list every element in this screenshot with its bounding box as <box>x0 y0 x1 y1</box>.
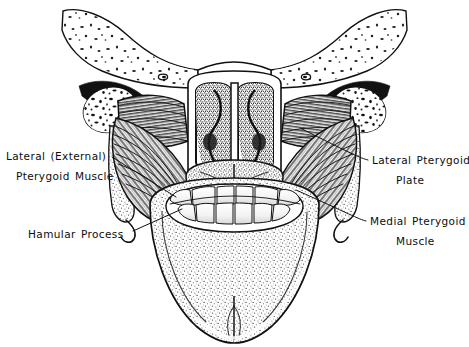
anatomical-figure: Lateral (External) Pterygoid Muscle Hamu… <box>0 0 469 347</box>
dental-arch <box>166 184 303 232</box>
vomer <box>231 83 238 171</box>
anatomy-illustration: Lateral (External) Pterygoid Muscle Hamu… <box>0 0 469 347</box>
label-medial-pterygoid-muscle-line1: Medial Pterygoid <box>370 215 466 227</box>
label-medial-pterygoid-muscle-line2: Muscle <box>396 235 435 247</box>
label-lateral-external-pterygoid-muscle-line2: Pterygoid Muscle <box>16 170 114 182</box>
label-lateral-external-pterygoid-muscle-line1: Lateral (External) <box>6 150 106 162</box>
label-lateral-pterygoid-plate-line2: Plate <box>396 174 424 186</box>
foramen-left-core <box>162 76 166 79</box>
label-hamular-process: Hamular Process <box>28 228 124 240</box>
foramen-right-core <box>303 76 307 79</box>
label-lateral-pterygoid-plate-line1: Lateral Pterygoid <box>372 154 469 166</box>
